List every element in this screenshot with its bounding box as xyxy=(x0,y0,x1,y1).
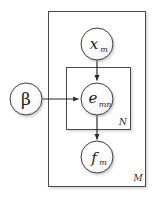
node-beta: β xyxy=(10,83,42,115)
pgm-canvas: M N β x m e mn xyxy=(0,0,155,198)
node-f-m-circle xyxy=(81,141,113,173)
node-x-m-subscript: m xyxy=(100,45,108,54)
graphical-model-diagram: M N β x m e mn xyxy=(0,0,155,198)
node-x-m-label: x xyxy=(90,35,99,53)
node-f-m: f m xyxy=(81,141,113,173)
node-x-m: x m xyxy=(81,28,113,60)
node-beta-label: β xyxy=(21,89,31,109)
plate-inner-label: N xyxy=(118,117,128,127)
node-f-m-subscript: m xyxy=(99,158,107,167)
plate-outer-label: M xyxy=(132,173,143,183)
node-e-mn: e mn xyxy=(81,83,113,115)
node-e-mn-label: e xyxy=(89,89,98,107)
node-e-mn-subscript: mn xyxy=(99,100,112,109)
